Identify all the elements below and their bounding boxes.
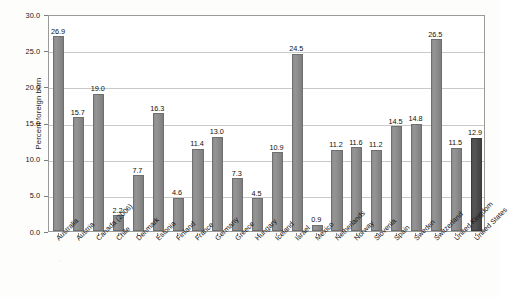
bar[interactable] bbox=[411, 124, 422, 231]
y-tick-mark bbox=[44, 232, 48, 233]
bar-value-label: 26.9 bbox=[45, 27, 71, 36]
bar-value-label: 0.9 bbox=[303, 215, 329, 224]
plot-inner bbox=[49, 16, 484, 231]
bar-value-label: 26.5 bbox=[422, 30, 448, 39]
y-tick-label: 20.0 bbox=[0, 83, 40, 92]
bar[interactable] bbox=[93, 94, 104, 231]
bar-value-label: 12.9 bbox=[462, 128, 488, 137]
bar-value-label: 24.5 bbox=[283, 44, 309, 53]
bar[interactable] bbox=[153, 113, 164, 231]
bar-value-label: 16.3 bbox=[144, 104, 170, 113]
bar[interactable] bbox=[371, 150, 382, 231]
bar[interactable] bbox=[133, 175, 144, 231]
bar[interactable] bbox=[53, 36, 64, 231]
bar-value-label: 10.9 bbox=[263, 143, 289, 152]
bar-value-label: 15.7 bbox=[65, 108, 91, 117]
bar-value-label: 11.2 bbox=[363, 140, 389, 149]
bar-value-label: 7.7 bbox=[124, 166, 150, 175]
y-tick-label: 30.0 bbox=[0, 11, 40, 20]
bar[interactable] bbox=[292, 54, 303, 231]
y-tick-label: 5.0 bbox=[0, 191, 40, 200]
plot-area bbox=[48, 15, 485, 232]
y-tick-label: 15.0 bbox=[0, 119, 40, 128]
y-tick-label: 25.0 bbox=[0, 47, 40, 56]
y-tick-label: 0.0 bbox=[0, 228, 40, 237]
bar[interactable] bbox=[331, 150, 342, 231]
bar[interactable] bbox=[391, 126, 402, 231]
bar-value-label: 11.5 bbox=[442, 138, 468, 147]
bar[interactable] bbox=[73, 117, 84, 231]
bar-value-label: 14.8 bbox=[402, 114, 428, 123]
bar-value-label: 11.4 bbox=[184, 139, 210, 148]
bar-value-label: 2.2 bbox=[105, 206, 131, 215]
gridline bbox=[49, 52, 484, 53]
bar-value-label: 19.0 bbox=[85, 84, 111, 93]
gridline bbox=[49, 88, 484, 89]
bar-value-label: 4.6 bbox=[164, 188, 190, 197]
bar-value-label: 13.0 bbox=[204, 127, 230, 136]
bar-value-label: 4.5 bbox=[244, 189, 270, 198]
bar[interactable] bbox=[212, 137, 223, 231]
y-tick-label: 10.0 bbox=[0, 155, 40, 164]
bar[interactable] bbox=[431, 39, 442, 231]
bar[interactable] bbox=[192, 149, 203, 231]
bar-value-label: 7.3 bbox=[224, 169, 250, 178]
